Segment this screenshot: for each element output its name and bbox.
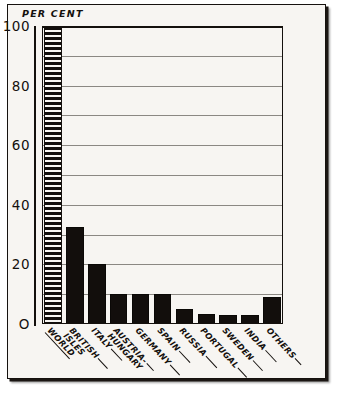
y-tick-60: 60 [12, 137, 30, 153]
x-axis-category-labels: WORLDBRITISHISLESITALYAUSTRIA-HUNGARYGER… [42, 326, 292, 386]
y-tick-20: 20 [12, 256, 30, 272]
plot-border [42, 26, 283, 324]
y-axis-title: PER CENT [22, 8, 84, 19]
leader-line [295, 358, 302, 365]
y-axis-line [34, 26, 36, 326]
leader-line [253, 360, 263, 371]
scanned-page: PER CENT O20406080100 WORLDBRITISHISLESI… [0, 0, 341, 403]
y-tick-80: 80 [12, 78, 30, 94]
y-tick-0: O [19, 316, 30, 332]
leader-line [238, 367, 248, 377]
leader-line [146, 363, 154, 371]
y-tick-100: 100 [3, 18, 30, 34]
y-axis-tick-labels: O20406080100 [0, 26, 30, 326]
leader-line [265, 350, 277, 362]
leader-line [205, 356, 217, 368]
plot-area [42, 26, 283, 324]
y-tick-40: 40 [12, 197, 30, 213]
leader-line [169, 365, 179, 376]
leader-line [178, 351, 190, 363]
